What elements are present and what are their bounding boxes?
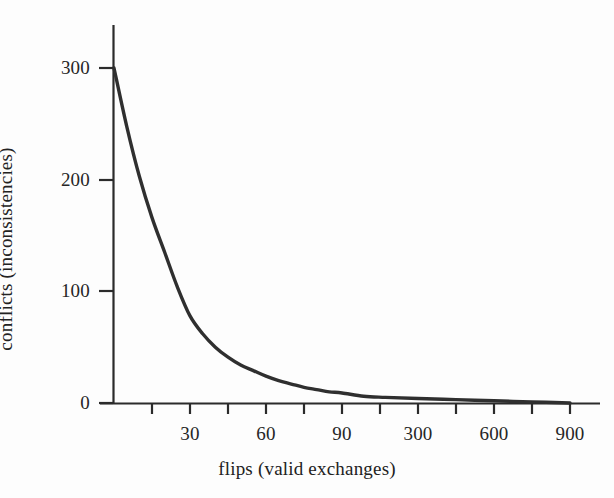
x-tick-label-30: 30	[180, 423, 199, 445]
y-tick-label-200: 200	[34, 169, 90, 191]
y-tick-label-300: 300	[34, 57, 90, 79]
plot-area	[0, 0, 614, 498]
conflicts-curve	[114, 68, 570, 403]
x-axis-title: flips (valid exchanges)	[0, 458, 614, 480]
y-axis-title: conflicts (inconsistencies)	[0, 147, 17, 350]
x-tick-label-600: 600	[479, 423, 508, 445]
y-tick-marks	[99, 68, 113, 403]
x-tick-label-900: 900	[555, 423, 584, 445]
x-tick-marks	[152, 403, 570, 414]
x-tick-label-60: 60	[256, 423, 275, 445]
y-tick-label-100: 100	[34, 280, 90, 302]
x-tick-label-90: 90	[332, 423, 351, 445]
chart-figure: 300 200 100 0 30 60 90 300 600 900 confl…	[0, 0, 614, 498]
y-tick-label-0: 0	[34, 392, 90, 414]
x-tick-label-300: 300	[403, 423, 432, 445]
